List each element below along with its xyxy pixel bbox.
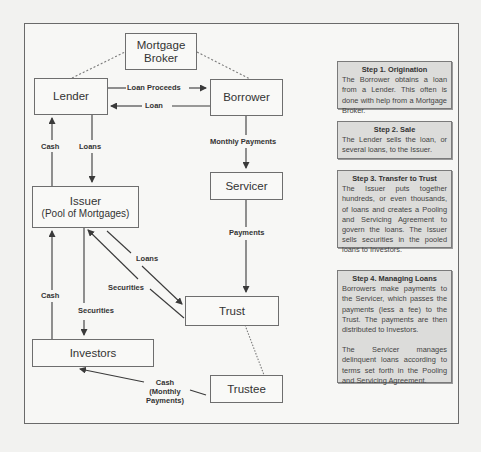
edge-label-securities-to-investors: Securities <box>78 306 114 315</box>
edge-label-cash-to-lender: Cash <box>41 142 59 151</box>
edge-label-loans-to-issuer: Loans <box>79 142 101 151</box>
cash-label-line1: Cash <box>146 378 184 387</box>
trustee-label: Trustee <box>227 383 266 396</box>
step-3-text: The Issuer puts together hundreds, or ev… <box>342 184 447 255</box>
step-4-text-1: Borrowers make payments to the Servicer,… <box>342 284 447 335</box>
step-2-text: The Lender sells the loan, or several lo… <box>342 135 447 155</box>
step-3-box: Step 3. Transfer to Trust The Issuer put… <box>337 170 452 248</box>
edge-label-loan: Loan <box>145 101 163 110</box>
issuer-sublabel: (Pool of Mortgages) <box>42 208 130 220</box>
step-2-title: Step 2. Sale <box>342 125 447 135</box>
step-1-title: Step 1. Origination <box>342 65 447 75</box>
lender-label: Lender <box>53 90 89 103</box>
borrower-label: Borrower <box>223 91 270 104</box>
step-2-box: Step 2. Sale The Lender sells the loan, … <box>337 121 452 159</box>
edge-label-payments: Payments <box>229 228 264 237</box>
trust-label: Trust <box>219 305 245 318</box>
mortgage-broker-label-line1: Mortgage <box>137 39 186 52</box>
edge-label-cash-to-issuer: Cash <box>41 291 59 300</box>
cash-label-line2: (Monthly <box>146 387 184 396</box>
issuer-node: Issuer (Pool of Mortgages) <box>32 186 139 228</box>
step-4-title: Step 4. Managing Loans <box>342 274 447 284</box>
step-4-text-2: The Servicer manages delinquent loans ac… <box>342 345 447 386</box>
edge-label-cash-monthly-payments: Cash (Monthly Payments) <box>146 378 184 405</box>
step-1-text: The Borrower obtains a loan from a Lende… <box>342 75 447 116</box>
servicer-label: Servicer <box>225 180 267 193</box>
step-1-box: Step 1. Origination The Borrower obtains… <box>337 61 452 109</box>
issuer-label: Issuer <box>70 195 101 208</box>
investors-label: Investors <box>70 347 117 360</box>
investors-node: Investors <box>32 339 154 367</box>
borrower-node: Borrower <box>210 79 283 116</box>
step-3-title: Step 3. Transfer to Trust <box>342 174 447 184</box>
step-4-box: Step 4. Managing Loans Borrowers make pa… <box>337 270 452 383</box>
edge-label-loan-proceeds: Loan Proceeds <box>127 83 181 92</box>
trust-node: Trust <box>185 296 279 326</box>
cash-label-line3: Payments) <box>146 396 184 405</box>
lender-node: Lender <box>34 78 108 115</box>
edge-label-securities-to-issuer: Securities <box>108 283 144 292</box>
mortgage-broker-label-line2: Broker <box>144 52 178 65</box>
servicer-node: Servicer <box>210 172 283 200</box>
trustee-node: Trustee <box>210 375 283 403</box>
mortgage-broker-node: Mortgage Broker <box>125 33 197 70</box>
edge-label-loans-to-trust: Loans <box>136 254 158 263</box>
edge-label-monthly-payments: Monthly Payments <box>210 137 276 146</box>
